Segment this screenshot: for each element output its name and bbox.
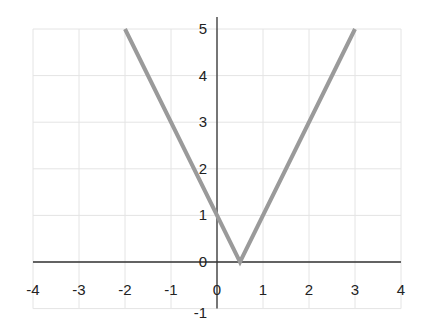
series-line [125, 29, 355, 262]
x-tick-label: -3 [72, 281, 85, 298]
x-tick-label: -4 [26, 281, 39, 298]
y-tick-label: 0 [199, 253, 207, 270]
y-tick-label: 2 [199, 160, 207, 177]
chart: -4-3-2-101234-1012345 [0, 0, 424, 335]
x-tick-label: 0 [213, 281, 221, 298]
x-tick-label: 2 [305, 281, 313, 298]
x-tick-label: 4 [397, 281, 405, 298]
x-tick-label: 3 [351, 281, 359, 298]
y-tick-label: -1 [194, 304, 207, 321]
x-tick-label: -1 [164, 281, 177, 298]
x-tick-label: -2 [118, 281, 131, 298]
y-tick-label: 1 [199, 206, 207, 223]
plot-area: -4-3-2-101234-1012345 [0, 0, 424, 335]
y-tick-label: 4 [199, 67, 207, 84]
x-tick-label: 1 [259, 281, 267, 298]
y-tick-label: 5 [199, 20, 207, 37]
y-tick-label: 3 [199, 113, 207, 130]
